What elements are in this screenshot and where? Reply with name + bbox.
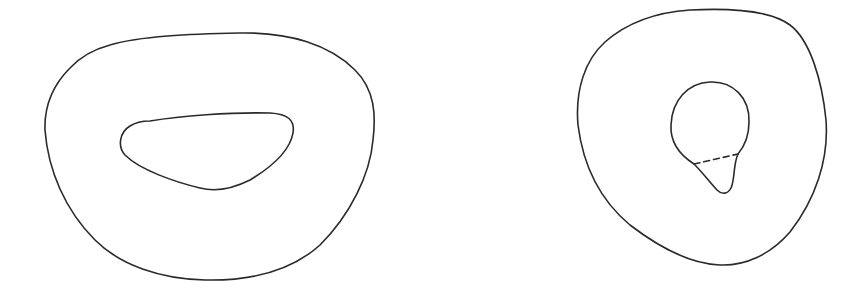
dashed-separator-line	[694, 154, 738, 164]
left-outer-boundary	[45, 33, 374, 280]
diagram-canvas	[0, 0, 860, 295]
left-inner-hole	[120, 113, 293, 190]
right-outer-boundary	[577, 9, 826, 265]
right-inner-hole	[671, 82, 749, 193]
left-figure	[45, 33, 374, 280]
diagram-svg	[0, 0, 860, 295]
right-figure	[577, 9, 826, 265]
